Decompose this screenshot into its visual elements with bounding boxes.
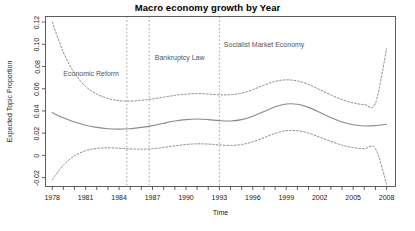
x-tick-label-8: 2002 bbox=[312, 194, 328, 201]
series-line-ci-1 bbox=[52, 22, 386, 108]
y-tick-label-3: 0.04 bbox=[34, 105, 41, 119]
y-tick-label-0: -0.02 bbox=[34, 170, 41, 186]
chart-container: Macro economy growth by Year -0.0200.020… bbox=[0, 0, 415, 231]
y-tick-label-1: 0 bbox=[34, 154, 41, 158]
x-tick-label-6: 1996 bbox=[245, 194, 261, 201]
x-tick-label-0: 1978 bbox=[44, 194, 60, 201]
x-tick-label-4: 1990 bbox=[178, 194, 194, 201]
x-tick-label-3: 1987 bbox=[145, 194, 161, 201]
x-axis-title: Time bbox=[213, 209, 228, 216]
chart-plot-area: -0.0200.020.040.060.080.100.12Expected T… bbox=[0, 0, 415, 231]
y-tick-label-6: 0.10 bbox=[34, 38, 41, 52]
y-tick-label-2: 0.02 bbox=[34, 127, 41, 141]
x-tick-label-1: 1981 bbox=[78, 194, 94, 201]
annotation-label-0: Economic Reform bbox=[63, 70, 119, 77]
x-tick-label-10: 2008 bbox=[379, 194, 395, 201]
plot-frame bbox=[46, 17, 396, 187]
annotation-label-1: Bankruptcy Law bbox=[155, 54, 206, 62]
y-tick-label-5: 0.08 bbox=[34, 60, 41, 74]
y-axis-title: Expected Topic Proportion bbox=[6, 61, 14, 143]
annotation-label-2: Socialist Market Economy bbox=[224, 41, 305, 49]
x-tick-label-5: 1993 bbox=[212, 194, 228, 201]
y-tick-label-7: 0.12 bbox=[34, 16, 41, 30]
x-tick-label-9: 2005 bbox=[345, 194, 361, 201]
y-tick-label-4: 0.06 bbox=[34, 82, 41, 96]
x-tick-label-7: 1999 bbox=[278, 194, 294, 201]
x-tick-label-2: 1984 bbox=[111, 194, 127, 201]
